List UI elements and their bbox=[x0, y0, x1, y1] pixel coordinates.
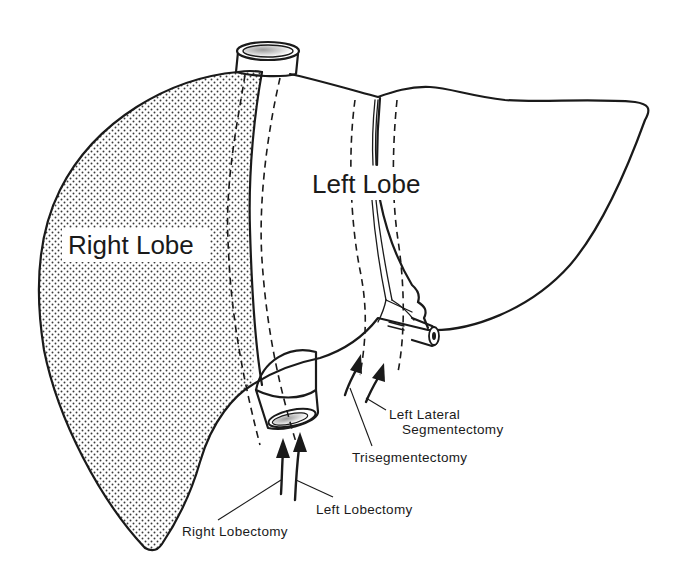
left-lobe-label: Left Lobe bbox=[312, 169, 420, 199]
hilar-cylinder bbox=[256, 350, 318, 431]
leader-left-lobectomy bbox=[296, 480, 333, 497]
left-lateral-label-line2: Segmentectomy bbox=[402, 422, 503, 437]
leader-right-lobectomy bbox=[218, 480, 281, 520]
right-lobectomy-label: Right Lobectomy bbox=[182, 524, 288, 539]
left-lateral-label-line1: Left Lateral bbox=[389, 407, 460, 422]
falciform-ligament bbox=[373, 100, 375, 165]
trisegmentectomy-label: Trisegmentectomy bbox=[352, 450, 467, 465]
right-lobe-region bbox=[39, 72, 262, 550]
leader-left-lateral bbox=[366, 398, 386, 410]
arrow-right-lobectomy bbox=[276, 438, 290, 494]
arrow-left-lobectomy bbox=[293, 432, 307, 500]
left-lobectomy-label: Left Lobectomy bbox=[316, 502, 413, 517]
arrow-left-lateral-segmentectomy bbox=[366, 363, 385, 402]
liver-resection-diagram: Right Lobe Left Lobe Right Lobectomy Lef… bbox=[0, 0, 682, 580]
right-lobe-label: Right Lobe bbox=[68, 230, 194, 260]
